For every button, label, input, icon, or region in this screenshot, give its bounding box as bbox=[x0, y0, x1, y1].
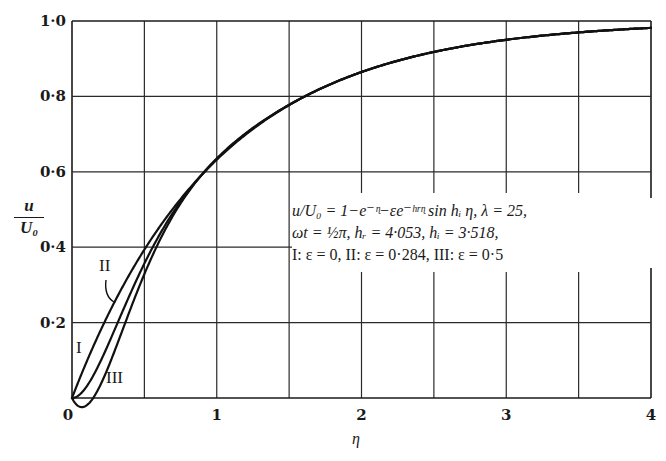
y-axis-label-numerator: u bbox=[14, 196, 44, 218]
y-tick-label: 1·0 bbox=[40, 12, 66, 30]
x-tick-label: 1 bbox=[212, 406, 222, 424]
y-axis-label-denominator: U₀ bbox=[20, 218, 38, 237]
y-tick-label: 0·6 bbox=[40, 163, 66, 181]
y-tick-label: 0·8 bbox=[40, 87, 66, 105]
x-tick-label: 2 bbox=[356, 406, 366, 424]
curve-label-ii: II bbox=[99, 256, 110, 276]
x-tick-label: 4 bbox=[646, 406, 656, 424]
x-tick-label: 3 bbox=[501, 406, 511, 424]
annotation-line-2: ωt = ½π, hᵣ = 4·053, hᵢ = 3·518, bbox=[292, 222, 652, 244]
annotation-line-1: u/U₀ = 1−e⁻ᶯ−εe⁻ʰʳᶯ sin hᵢ η, λ = 25, bbox=[292, 200, 652, 222]
x-tick-label: 0 bbox=[63, 406, 73, 424]
y-tick-label: 0·4 bbox=[40, 238, 66, 256]
y-axis-label: u U₀ bbox=[14, 196, 44, 238]
x-axis-label: η bbox=[352, 430, 360, 448]
curve-label-i: I bbox=[76, 338, 82, 358]
curve-ii-leader-line bbox=[106, 280, 114, 302]
curve-label-iii: III bbox=[106, 368, 123, 388]
y-tick-label: 0·2 bbox=[40, 314, 66, 332]
annotation-line-3: I: ε = 0, II: ε = 0·284, III: ε = 0·5 bbox=[292, 244, 652, 266]
formula-annotation: u/U₀ = 1−e⁻ᶯ−εe⁻ʰʳᶯ sin hᵢ η, λ = 25, ωt… bbox=[292, 198, 652, 268]
